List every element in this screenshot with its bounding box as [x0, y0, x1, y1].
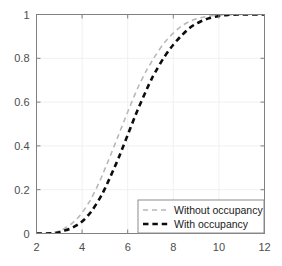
y-tick-label: 0.6 — [14, 96, 29, 108]
legend-label-1: With occupancy — [174, 218, 249, 230]
y-tick-label: 0.2 — [14, 184, 29, 196]
y-tick-label: 1 — [23, 9, 29, 21]
x-tick-label: 6 — [125, 241, 131, 253]
y-tick-label: 0.8 — [14, 52, 29, 64]
y-tick-label: 0 — [23, 228, 29, 240]
legend-label-0: Without occupancy — [174, 204, 263, 216]
x-tick-label: 12 — [258, 241, 270, 253]
figure-canvas: 2468101200.20.40.60.81Without occupancyW… — [0, 0, 282, 266]
x-tick-label: 10 — [213, 241, 225, 253]
cdf-plot: 2468101200.20.40.60.81Without occupancyW… — [0, 0, 282, 266]
x-tick-label: 2 — [33, 241, 39, 253]
x-tick-label: 4 — [79, 241, 85, 253]
y-tick-label: 0.4 — [14, 140, 29, 152]
legend: Without occupancyWith occupancy — [138, 200, 264, 233]
x-tick-label: 8 — [170, 241, 176, 253]
